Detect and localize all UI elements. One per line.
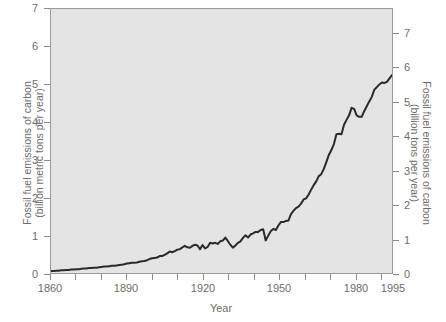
- tick-bottom-1920: [203, 274, 204, 280]
- tick-label-bottom-1950: 1950: [267, 283, 291, 294]
- tick-bottom-1960: [305, 274, 306, 280]
- tick-left-7: [44, 8, 50, 9]
- x-axis-label: Year: [0, 302, 446, 314]
- tick-right-3: [393, 171, 399, 172]
- plot-area: [50, 8, 393, 274]
- emissions-line: [51, 75, 392, 271]
- tick-bottom-1990: [381, 274, 382, 280]
- y-axis-label-right-line2: (billion tons per year): [409, 58, 421, 248]
- tick-bottom-1980: [356, 274, 357, 280]
- tick-right-7: [393, 33, 399, 34]
- tick-right-2: [393, 205, 399, 206]
- tick-bottom-1880: [101, 274, 102, 280]
- data-line-svg: [51, 9, 392, 273]
- tick-bottom-1890: [126, 274, 127, 280]
- tick-bottom-1930: [228, 274, 229, 280]
- tick-label-right-0: 0: [404, 269, 410, 280]
- tick-bottom-1870: [75, 274, 76, 280]
- tick-label-left-7: 7: [32, 3, 38, 14]
- tick-right-5: [393, 102, 399, 103]
- y-axis-label-left-line1: Fossil fuel emissions of carbon: [21, 81, 33, 225]
- y-axis-label-left-line2: (billion metric tons per year): [33, 58, 45, 248]
- tick-right-4: [393, 136, 399, 137]
- tick-right-1: [393, 240, 399, 241]
- tick-bottom-1970: [330, 274, 331, 280]
- tick-bottom-1950: [279, 274, 280, 280]
- tick-bottom-1910: [177, 274, 178, 280]
- tick-bottom-1900: [152, 274, 153, 280]
- tick-label-bottom-1860: 1860: [38, 283, 62, 294]
- tick-bottom-1940: [254, 274, 255, 280]
- tick-label-bottom-1890: 1890: [114, 283, 138, 294]
- tick-right-0: [393, 274, 399, 275]
- y-axis-label-right: Fossil fuel emissions of carbon (billion…: [409, 58, 433, 248]
- tick-right-6: [393, 67, 399, 68]
- tick-bottom-1860: [50, 274, 51, 280]
- tick-label-bottom-1995: 1995: [381, 283, 405, 294]
- chart-figure: 0 1 2 3 4 5 6 7 0 1 2 3 4 5 6 7 1860 189…: [0, 0, 446, 322]
- tick-label-right-7: 7: [404, 28, 410, 39]
- x-axis-label-text: Year: [210, 302, 232, 314]
- y-axis-label-left: Fossil fuel emissions of carbon (billion…: [21, 58, 45, 248]
- tick-label-bottom-1920: 1920: [191, 283, 215, 294]
- tick-label-left-0: 0: [32, 269, 38, 280]
- tick-label-left-6: 6: [32, 41, 38, 52]
- y-axis-label-right-line1: Fossil fuel emissions of carbon: [421, 81, 433, 225]
- tick-left-6: [44, 46, 50, 47]
- tick-label-bottom-1980: 1980: [344, 283, 368, 294]
